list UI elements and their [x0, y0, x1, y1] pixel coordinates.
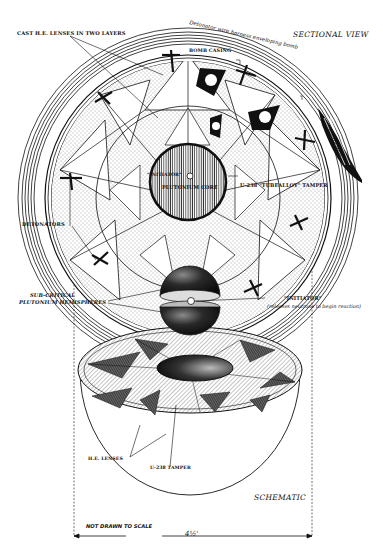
implosion-bomb-diagram: CAST H.E. LENSES IN TWO LAYERS Detonator… — [0, 0, 383, 557]
initiator-side — [188, 298, 195, 305]
hemispheres-label-line1: SUB-CRITICAL — [30, 293, 75, 298]
schematic-title: SCHEMATIC — [254, 494, 306, 502]
he-lenses-label: H.E. LENSES — [88, 457, 123, 462]
he-lenses-two-layers-label: CAST H.E. LENSES IN TWO LAYERS — [17, 31, 126, 36]
diagram-canvas — [0, 0, 383, 557]
tamper-top-label: U-238 "TUBEALLOY" TAMPER — [240, 183, 327, 188]
tamper-bottom-label: U-238 TAMPER — [150, 466, 191, 471]
hemispheres-label-line2: PLUTONIUM HEMISPHERES — [19, 300, 106, 305]
not-to-scale-label: NOT DRAWN TO SCALE — [86, 524, 152, 529]
dimension-label: 4½' — [185, 531, 198, 538]
plutonium-core-label: PLUTONIUM CORE — [162, 185, 218, 190]
plutonium-core — [150, 144, 226, 220]
detonators-label: DETONATORS — [22, 222, 65, 227]
schematic-core-cavity — [157, 355, 233, 381]
initiator-side-label: "INITIATOR" — [284, 296, 321, 301]
initiator-note-label: (releases neutrons to begin reaction) — [267, 304, 361, 309]
sectional-view-title: SECTIONAL VIEW — [293, 31, 369, 39]
initiator-center — [187, 173, 193, 179]
bomb-casing-label: BOMB CASING — [189, 48, 231, 53]
initiator-top-label: "INITIATOR" — [147, 173, 182, 178]
